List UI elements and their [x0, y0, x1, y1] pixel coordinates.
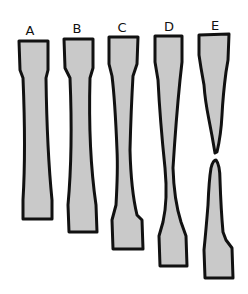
specimen-b — [64, 39, 97, 232]
specimen-a — [19, 41, 52, 219]
specimen-e-lower — [204, 160, 233, 278]
specimen-e-upper — [199, 34, 229, 153]
tensile-specimen-figure: A B C D E — [0, 0, 248, 294]
specimen-d — [155, 36, 187, 266]
specimen-drawing — [0, 0, 248, 294]
specimen-c — [109, 37, 143, 249]
